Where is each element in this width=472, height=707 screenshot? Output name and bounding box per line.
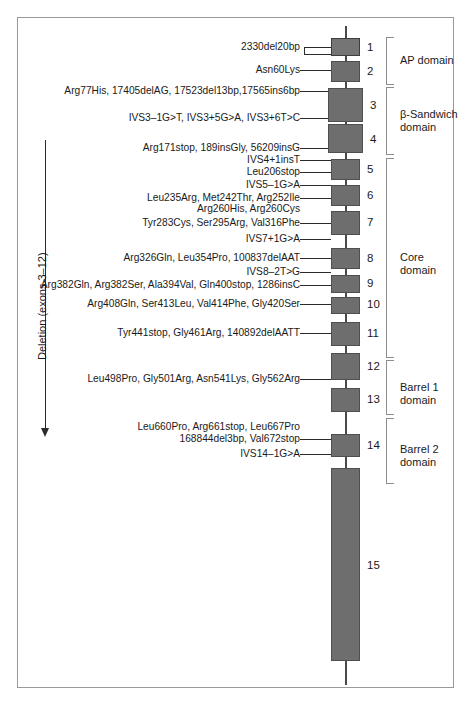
leader-line [300, 272, 331, 273]
mutation-label: IVS14–1G>A [240, 448, 300, 460]
mutation-label: 2330del20bp [241, 41, 300, 53]
leader-line [300, 333, 331, 334]
mutation-label: Arg77His, 17405delAG, 17523del13bp,17565… [64, 85, 300, 97]
leader-line [300, 172, 331, 173]
leader-line [300, 70, 331, 71]
domain-label-line: AP domain [400, 54, 454, 67]
exon-number: 8 [367, 253, 373, 265]
leader-line [300, 185, 331, 186]
exon-box [328, 124, 363, 153]
leader-line [300, 91, 328, 92]
mutation-label: Leu235Arg, Met242Thr, Arg252Ile [147, 192, 300, 204]
mutation-label: Arg326Gln, Leu354Pro, 100837delAAT [123, 252, 300, 264]
mutation-label: 168844del3bp, Val672stop [180, 433, 300, 445]
leader-line [304, 54, 331, 55]
leader-line [304, 47, 331, 48]
mutation-label: Asn60Lys [256, 64, 300, 76]
exon-box [331, 468, 360, 661]
exon-box [331, 38, 360, 56]
leader-line [300, 258, 331, 259]
exon-box [331, 297, 360, 314]
exon-number: 13 [367, 394, 380, 406]
exon-number: 3 [370, 100, 376, 112]
leader-line [300, 304, 331, 305]
leader-line [300, 285, 331, 286]
exon-number: 10 [367, 299, 380, 311]
leader-line [300, 223, 331, 224]
mutation-label: IVS8–2T>G [246, 266, 300, 278]
mutation-label: Tyr283Cys, Ser295Arg, Val316Phe [142, 217, 300, 229]
exon-number: 15 [367, 560, 380, 572]
domain-bracket [386, 37, 394, 85]
mutation-label: Arg408Gln, Ser413Leu, Val414Phe, Gly420S… [87, 298, 300, 310]
mutation-label: Tyr441stop, Gly461Arg, 140892delAATT [117, 327, 300, 339]
leader-line [300, 239, 331, 240]
down-arrow-icon [41, 428, 49, 437]
mutation-label: Arg171stop, 189insGly, 56209insG [143, 142, 300, 154]
intron-connector [345, 659, 347, 685]
exon-number: 6 [367, 190, 373, 202]
mutation-label: Leu660Pro, Arg661stop, Leu667Pro [137, 421, 300, 433]
domain-bracket [386, 360, 394, 415]
exon-box [331, 434, 360, 457]
domain-label-line: Core [400, 251, 436, 264]
exon-number: 7 [367, 217, 373, 229]
mutation-label: IVS7+1G>A [246, 233, 300, 245]
exon-number: 2 [367, 66, 373, 78]
mutation-label: Leu498Pro, Gly501Arg, Asn541Lys, Gly562A… [87, 373, 300, 385]
exon-box [331, 388, 360, 412]
leader-line [300, 118, 328, 119]
leader-line [304, 47, 305, 55]
domain-label-line: domain [400, 456, 439, 469]
domain-label-line: Barrel 1 [400, 381, 439, 394]
gene-mutation-diagram: Deletion (exons 3–12) 1 [0, 0, 472, 707]
domain-label-line: domain [400, 394, 439, 407]
exon-box [331, 61, 360, 82]
domain-label-line: β-Sandwich [400, 108, 458, 121]
exon-box [331, 211, 360, 235]
exon-box [331, 159, 360, 180]
leader-line [300, 198, 331, 199]
mutation-label: Arg382Gln, Arg382Ser, Ala394Val, Gln400s… [41, 279, 300, 291]
domain-bracket [386, 418, 394, 484]
leader-line [300, 454, 331, 455]
domain-label: Core domain [400, 251, 436, 276]
intron-connector [345, 410, 347, 436]
exon-number: 12 [367, 361, 380, 373]
leader-line [300, 148, 328, 149]
domain-label: Barrel 2 domain [400, 443, 439, 468]
mutation-label: IVS5–1G>A [246, 179, 300, 191]
domain-bracket [386, 158, 394, 358]
exon-box [331, 248, 360, 269]
domain-label-line: domain [400, 121, 458, 134]
leader-line [300, 439, 331, 440]
exon-number: 4 [370, 134, 376, 146]
exon-number: 1 [367, 42, 373, 54]
mutation-label: Leu206stop [247, 166, 300, 178]
domain-bracket [386, 87, 394, 155]
mutation-label: IVS3–1G>T, IVS3+5G>A, IVS3+6T>C [129, 112, 300, 124]
exon-number: 14 [367, 440, 380, 452]
exon-number: 11 [367, 328, 379, 340]
domain-label-line: domain [400, 264, 436, 277]
exon-box [331, 275, 360, 293]
domain-label: AP domain [400, 54, 454, 67]
domain-label-line: Barrel 2 [400, 443, 439, 456]
deletion-annotation-label: Deletion (exons 3–12) [36, 252, 48, 360]
exon-number: 5 [367, 164, 373, 176]
exon-box [328, 88, 363, 122]
leader-line [300, 160, 331, 161]
leader-line [300, 379, 331, 380]
exon-box [331, 185, 360, 206]
mutation-label: IVS4+1insT [247, 154, 300, 166]
exon-box [331, 322, 360, 346]
domain-label: β-Sandwich domain [400, 108, 458, 133]
diagram-canvas: Deletion (exons 3–12) 1 [0, 0, 472, 707]
mutation-label: Arg260His, Arg260Cys [197, 203, 300, 215]
domain-label: Barrel 1 domain [400, 381, 439, 406]
exon-number: 9 [367, 278, 373, 290]
exon-box [331, 353, 360, 380]
